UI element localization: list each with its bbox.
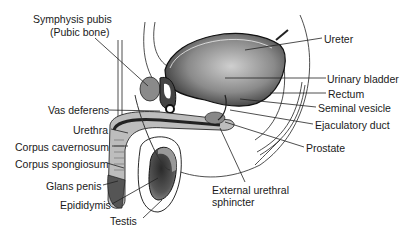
urinary-bladder [165, 30, 288, 106]
label-epididymis: Epididymis [60, 199, 111, 211]
label-ureter: Ureter [324, 33, 353, 45]
label-external-urethral: External urethral [212, 184, 289, 196]
label-prostate: Prostate [306, 142, 345, 154]
label-rectum: Rectum [328, 88, 364, 100]
label-corpus-cavernosum: Corpus cavernosum [15, 141, 109, 153]
label-sphincter: sphincter [212, 196, 255, 208]
label-urinary-bladder: Urinary bladder [327, 73, 399, 85]
label-ejaculatory-duct: Ejaculatory duct [315, 119, 390, 131]
symphysis-pubis [140, 77, 176, 113]
scrotum [138, 137, 181, 212]
prostate [205, 112, 225, 124]
label-urethra: Urethra [73, 124, 108, 136]
label-testis: Testis [110, 215, 137, 227]
label-seminal-vesicle: Seminal vesicle [318, 102, 391, 114]
label-pubic-bone: (Pubic bone) [50, 26, 110, 38]
label-symphysis-pubis: Symphysis pubis [33, 13, 112, 25]
label-vas-deferens: Vas deferens [48, 104, 109, 116]
label-corpus-spongiosum: Corpus spongiosum [15, 158, 108, 170]
label-glans-penis: Glans penis [46, 180, 101, 192]
